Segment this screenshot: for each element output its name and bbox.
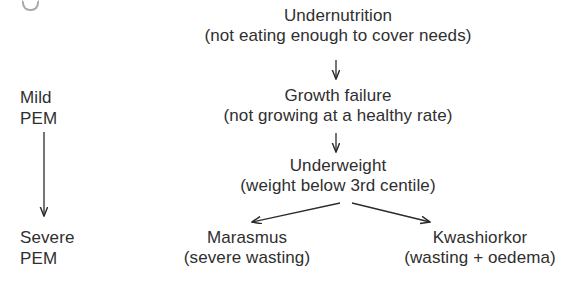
node-undernutrition-subtitle: (not eating enough to cover needs)	[163, 26, 513, 46]
node-mild-pem: Mild PEM	[20, 88, 110, 129]
node-underweight: Underweight (weight below 3rd centile)	[178, 156, 498, 196]
node-undernutrition-title: Undernutrition	[163, 6, 513, 26]
arrow-underweight-to-kwashiorkor	[352, 203, 430, 222]
undernutrition-flow-diagram: Mild PEM Severe PEM Undernutrition (not …	[0, 0, 578, 288]
node-kwashiorkor: Kwashiorkor (wasting + oedema)	[382, 228, 578, 268]
node-kwashiorkor-title: Kwashiorkor	[382, 228, 578, 248]
node-severe-pem: Severe PEM	[20, 228, 130, 269]
node-growth-failure-title: Growth failure	[163, 86, 513, 106]
node-underweight-subtitle: (weight below 3rd centile)	[178, 176, 498, 196]
node-marasmus-title: Marasmus	[152, 228, 342, 248]
node-marasmus-subtitle: (severe wasting)	[152, 248, 342, 268]
arrow-underweight-to-marasmus	[252, 203, 340, 222]
node-mild-pem-title: Mild	[20, 88, 110, 109]
node-underweight-title: Underweight	[178, 156, 498, 176]
node-mild-pem-subtitle: PEM	[20, 109, 110, 130]
node-severe-pem-title: Severe	[20, 228, 130, 249]
node-kwashiorkor-subtitle: (wasting + oedema)	[382, 248, 578, 268]
node-undernutrition: Undernutrition (not eating enough to cov…	[163, 6, 513, 46]
node-severe-pem-subtitle: PEM	[20, 249, 130, 270]
page-artifact-smudge	[22, 0, 39, 11]
node-growth-failure: Growth failure (not growing at a healthy…	[163, 86, 513, 126]
node-marasmus: Marasmus (severe wasting)	[152, 228, 342, 268]
node-growth-failure-subtitle: (not growing at a healthy rate)	[163, 106, 513, 126]
